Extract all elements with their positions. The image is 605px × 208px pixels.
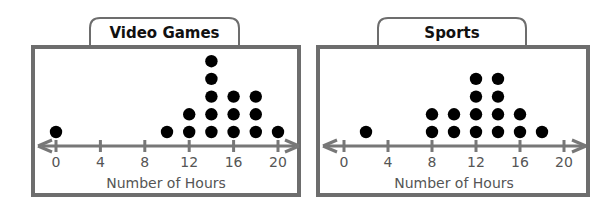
chart-frame xyxy=(33,47,299,195)
data-dot xyxy=(426,126,438,138)
data-dot xyxy=(514,126,526,138)
tick-label: 0 xyxy=(340,154,349,170)
data-dot xyxy=(250,90,262,102)
data-dot xyxy=(448,108,460,120)
tick-label: 20 xyxy=(555,154,573,170)
tick-label: 4 xyxy=(384,154,393,170)
dot-plot-video-games: Video Games 048121620 Number of Hours xyxy=(0,0,302,208)
data-dot xyxy=(205,73,217,85)
data-dot xyxy=(205,90,217,102)
data-dot xyxy=(492,126,504,138)
data-dot xyxy=(250,108,262,120)
data-dots xyxy=(360,73,548,138)
data-dot xyxy=(514,108,526,120)
tick-label: 20 xyxy=(269,154,287,170)
chart-title: Video Games xyxy=(109,24,219,42)
data-dot xyxy=(470,126,482,138)
data-dot xyxy=(161,126,173,138)
data-dot xyxy=(205,126,217,138)
x-axis-label: Number of Hours xyxy=(394,175,514,191)
data-dots xyxy=(50,55,284,138)
tick-label: 8 xyxy=(428,154,437,170)
x-axis-label: Number of Hours xyxy=(106,175,226,191)
tick-label: 16 xyxy=(225,154,243,170)
data-dot xyxy=(227,108,239,120)
chart-frame xyxy=(318,47,588,195)
chart-title: Sports xyxy=(424,24,479,42)
data-dot xyxy=(205,55,217,67)
axis-tick-labels: 048121620 xyxy=(52,154,287,170)
dot-plot-svg: Sports 048121620 Number of Hours xyxy=(302,0,605,208)
data-dot xyxy=(492,90,504,102)
data-dot xyxy=(227,90,239,102)
data-dot xyxy=(448,126,460,138)
dot-plot-svg: Video Games 048121620 Number of Hours xyxy=(0,0,302,208)
tick-label: 8 xyxy=(140,154,149,170)
data-dot xyxy=(250,126,262,138)
data-dot xyxy=(205,108,217,120)
tick-label: 4 xyxy=(96,154,105,170)
data-dot xyxy=(183,126,195,138)
data-dot xyxy=(492,108,504,120)
data-dot xyxy=(183,108,195,120)
data-dot xyxy=(50,126,62,138)
data-dot xyxy=(470,108,482,120)
data-dot xyxy=(272,126,284,138)
data-dot xyxy=(492,73,504,85)
dot-plot-sports: Sports 048121620 Number of Hours xyxy=(302,0,605,208)
axis-tick-labels: 048121620 xyxy=(340,154,573,170)
tick-label: 16 xyxy=(511,154,529,170)
tick-label: 12 xyxy=(180,154,198,170)
data-dot xyxy=(360,126,372,138)
tick-label: 0 xyxy=(52,154,61,170)
data-dot xyxy=(426,108,438,120)
data-dot xyxy=(470,73,482,85)
data-dot xyxy=(536,126,548,138)
data-dot xyxy=(470,90,482,102)
tick-label: 12 xyxy=(467,154,485,170)
data-dot xyxy=(227,126,239,138)
